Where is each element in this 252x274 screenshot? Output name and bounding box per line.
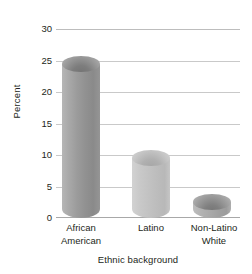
- y-axis-tick-labels: 30 25 20 15 10 5 0: [28, 29, 52, 218]
- bar-latino-body: [132, 158, 170, 218]
- y-axis-title: Percent: [11, 62, 22, 142]
- y-tick-label-25: 25: [30, 56, 52, 66]
- bar-african-american-body: [62, 64, 100, 218]
- x-tick-label-african-american-line2: American: [46, 235, 116, 248]
- x-axis-title: Ethnic background: [36, 254, 240, 265]
- x-tick-label-non-latino-white-line2: White: [178, 235, 250, 248]
- x-tick-label-non-latino-white-line1: Non-Latino: [191, 222, 237, 233]
- bar-non-latino-white: [193, 202, 231, 219]
- y-tick-label-20: 20: [30, 87, 52, 97]
- plot-area: [56, 29, 240, 218]
- x-tick-label-african-american-line1: African: [66, 222, 96, 233]
- bar-african-american: [62, 64, 100, 218]
- bar-latino: [132, 158, 170, 218]
- gridline-30: [56, 29, 240, 30]
- bar-latino-cap: [132, 150, 170, 166]
- bar-african-american-cap: [62, 56, 100, 72]
- x-tick-label-latino: Latino: [116, 222, 186, 235]
- bar-non-latino-white-cap: [193, 194, 231, 210]
- bar-chart-figure: Percent 30 25 20 15 10 5 0: [0, 0, 252, 274]
- y-tick-label-15: 15: [30, 119, 52, 129]
- x-tick-label-non-latino-white: Non-Latino White: [178, 222, 250, 247]
- x-tick-label-latino-line1: Latino: [138, 222, 164, 233]
- y-tick-label-5: 5: [30, 182, 52, 192]
- x-tick-label-african-american: African American: [46, 222, 116, 247]
- y-tick-label-30: 30: [30, 24, 52, 34]
- x-axis-tick-labels: African American Latino Non-Latino White: [56, 222, 240, 256]
- y-tick-label-10: 10: [30, 150, 52, 160]
